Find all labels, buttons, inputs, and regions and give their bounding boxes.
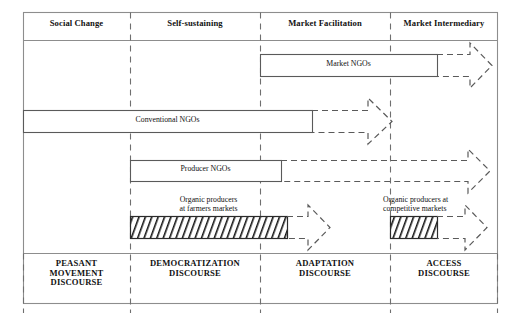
column-header-market-facilitation: Market Facilitation: [260, 19, 390, 29]
bar-organic-producers-competitive-markets: [391, 217, 438, 239]
bar-label-organic-producers-farmers-markets: Organic producers at farmers markets: [130, 195, 287, 213]
bar-organic-producers-farmers-markets: [131, 217, 288, 239]
discourse-label-adaptation: ADAPTATION DISCOURSE: [260, 259, 390, 278]
arrow-conventional-ngos: [312, 98, 392, 144]
discourse-label-peasant-movement: PEASANT MOVEMENT DISCOURSE: [23, 259, 130, 288]
diagram-canvas: Social Change Self-sustaining Market Fac…: [0, 0, 523, 317]
arrow-organic-farmers: [287, 205, 330, 250]
column-header-self-sustaining: Self-sustaining: [130, 19, 260, 29]
bar-label-conventional-ngos: Conventional NGOs: [23, 116, 312, 125]
bar-label-organic-producers-competitive-markets: Organic producers at competitive markets: [383, 195, 487, 213]
bar-label-producer-ngos: Producer NGOs: [130, 165, 281, 174]
discourse-label-democratization: DEMOCRATIZATION DISCOURSE: [130, 259, 260, 278]
column-header-social-change: Social Change: [23, 19, 130, 29]
arrow-market-ngos: [437, 43, 492, 88]
column-header-market-intermediary: Market Intermediary: [390, 19, 498, 29]
bar-label-market-ngos: Market NGOs: [260, 60, 437, 69]
arrow-producer-ngos: [281, 149, 490, 193]
discourse-label-access: ACCESS DISCOURSE: [390, 259, 498, 278]
